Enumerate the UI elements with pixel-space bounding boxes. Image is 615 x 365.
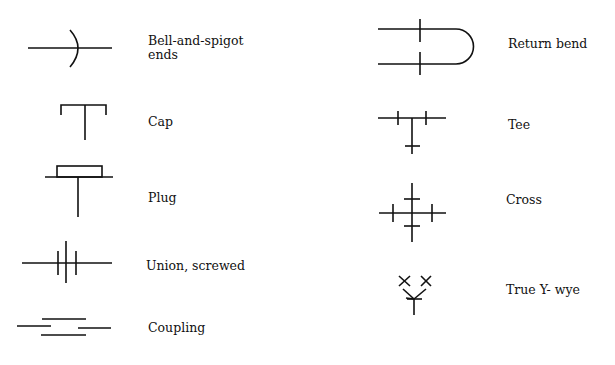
- plug-icon: [45, 166, 113, 217]
- label-line: ends: [148, 48, 244, 62]
- cap-icon: [61, 105, 106, 140]
- label-tee: Tee: [508, 118, 530, 132]
- label-coupling: Coupling: [148, 321, 205, 335]
- label-cross: Cross: [506, 193, 542, 207]
- union-screwed-icon: [22, 241, 112, 283]
- label-union-screwed: Union, screwed: [146, 259, 245, 273]
- label-line: Bell-and-spigot: [148, 34, 244, 48]
- bell-and-spigot-icon: [28, 30, 112, 67]
- label-cap: Cap: [148, 115, 173, 129]
- label-plug: Plug: [148, 191, 176, 205]
- label-return-bend: Return bend: [508, 37, 587, 51]
- tee-icon: [378, 111, 446, 154]
- label-true-y-wye: True Y- wye: [506, 283, 580, 297]
- coupling-icon: [17, 319, 111, 335]
- label-bell-and-spigot: Bell-and-spigot ends: [148, 34, 244, 62]
- true-y-wye-icon: [399, 276, 431, 315]
- cross-icon: [379, 183, 446, 242]
- return-bend-icon: [378, 19, 474, 75]
